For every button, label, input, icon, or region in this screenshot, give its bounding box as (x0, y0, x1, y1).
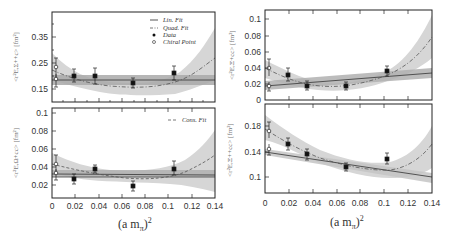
x-tick-label: 0.08 (137, 201, 154, 211)
x-tick-label: 0 (50, 201, 55, 211)
x-tick-label: 0.1 (378, 198, 390, 208)
y-tick-label: 0.1 (36, 108, 48, 118)
legend-data: Data (162, 31, 176, 38)
y-tick-label: 0.04 (31, 162, 48, 172)
panel-top-left: 0.35 0.25 0.15 <r²E,Σ++c> [fm²] Lin. Fit… (12, 12, 215, 102)
legend-lin-fit: Lin. Fit (162, 16, 183, 23)
x-tick-label: 0.02 (67, 201, 84, 211)
panel-bottom-right: 0.18 0.14 0.1 <r²E,Ξ++cc> [fm²] 0 0.02 0… (226, 104, 441, 231)
legend-quad-fit: Quad. Fit (163, 24, 188, 31)
y-tick-label: 0.1 (249, 14, 261, 24)
lin-fit-band (52, 170, 215, 177)
y-tick-label: 0.18 (244, 121, 261, 131)
y-axis-label: <r²E,Ω+cc> [fm²] (12, 128, 20, 178)
x-tick-label: 0.06 (114, 201, 131, 211)
x-tick-label: 0.1 (162, 201, 174, 211)
y-axis-label: <r²E,Ξ+cc> [fm²] (228, 30, 236, 79)
y-tick-label: 0.02 (31, 180, 48, 190)
x-tick-label: 0.04 (305, 198, 322, 208)
figure: 0.35 0.25 0.15 <r²E,Σ++c> [fm²] Lin. Fit… (0, 0, 449, 242)
y-tick-label: 0.02 (244, 79, 261, 89)
x-tick-label: 0.06 (329, 198, 346, 208)
y-tick-label: 0.08 (31, 126, 48, 136)
x-tick-labels: 0 0.02 0.04 0.06 0.08 0.1 0.12 0.14 (50, 201, 224, 211)
x-tick-label: 0.14 (424, 198, 441, 208)
legend: Lin. Fit Quad. Fit Data Chiral Point (150, 16, 196, 45)
x-tick-label: 0.02 (281, 198, 298, 208)
y-tick-label: 0.1 (249, 172, 261, 182)
legend-chiral-point: Chiral Point (163, 38, 196, 45)
x-tick-labels: 0 0.02 0.04 0.06 0.08 0.1 0.12 0.14 (263, 198, 441, 208)
x-tick-label: 0.12 (184, 201, 201, 211)
y-tick-label: 0 (256, 95, 261, 105)
chiral-point-marker-icon (153, 41, 156, 44)
y-tick-label: 0.35 (31, 32, 48, 42)
x-tick-label: 0.08 (352, 198, 369, 208)
x-ticks (63, 98, 203, 102)
y-tick-label: 0.06 (31, 144, 48, 154)
x-tick-label: 0 (263, 198, 268, 208)
y-tick-label: 0.14 (244, 147, 261, 157)
x-tick-label: 0.12 (400, 198, 417, 208)
quad-fit-band (52, 130, 215, 192)
x-axis-label: (a mπ)2 (330, 214, 364, 231)
x-tick-label: 0.04 (91, 201, 108, 211)
y-tick-label: 0.08 (244, 31, 261, 41)
y-tick-label: 0.25 (31, 58, 48, 68)
y-axis-label: <r²E,Σ++c> [fm²] (12, 32, 20, 82)
y-tick-label: 0.04 (244, 63, 261, 73)
x-axis-label: (a mπ)2 (118, 216, 152, 233)
y-tick-label: 0.15 (31, 84, 48, 94)
data-marker-icon (153, 34, 156, 37)
panel-top-right: 0.1 0.08 0.06 0.04 0.02 0 <r²E,Ξ+cc> [fm… (228, 10, 432, 105)
legend: Cons. Fit (168, 116, 206, 123)
legend-cons-fit: Cons. Fit (182, 116, 206, 123)
panel-bottom-left: 0.1 0.08 0.06 0.04 0.02 <r²E,Ω+cc> [fm²]… (12, 108, 224, 233)
y-axis-label: <r²E,Ξ++cc> [fm²] (226, 123, 234, 176)
y-tick-label: 0.06 (244, 47, 261, 57)
x-tick-label: 0.14 (207, 201, 224, 211)
